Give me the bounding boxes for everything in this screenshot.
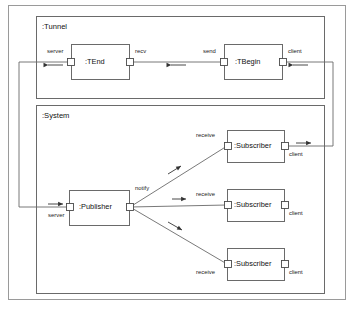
port-subscriber3-client [282,261,289,268]
port-tend-recv [127,59,134,66]
port-label-subscriber2-receive: receive [196,192,215,198]
port-publisher-server [67,204,74,211]
uml-component-diagram: :Tunnel :System :TEnd :TBegin :Publisher… [0,0,352,314]
port-label-subscriber1-client: client [289,152,303,158]
port-label-tbegin-client: client [288,49,302,55]
port-subscriber2-client [282,202,289,209]
component-label-subscriber3: :Subscriber [234,260,271,267]
port-label-subscriber3-client: client [289,270,303,276]
port-subscriber3-receive [225,261,232,268]
port-label-publisher-notify: notify [135,186,149,192]
link-notify-sub3 [130,207,227,264]
port-tend-server [68,59,75,66]
frame-tunnel [37,17,325,99]
component-label-publisher: :Publisher [79,203,112,210]
component-label-tbegin: :TBegin [235,58,260,65]
port-subscriber1-receive [225,143,232,150]
link-notify-sub2 [130,205,227,207]
port-label-tbegin-send: send [203,49,216,55]
port-label-subscriber1-receive: receive [196,133,215,139]
arrow-notify-sub1 [168,166,181,174]
link-tend-server-publisher-server [19,62,71,207]
component-label-subscriber1: :Subscriber [234,142,271,149]
port-label-tend-server: server [47,49,63,55]
port-label-subscriber3-receive: receive [196,270,215,276]
port-label-subscriber2-client: client [289,211,303,217]
port-label-tend-recv: recv [135,49,146,55]
component-label-subscriber2: :Subscriber [234,201,271,208]
arrow-notify-sub3 [168,222,182,230]
port-tbegin-client [280,59,287,66]
frame-title-system: :System [42,112,69,120]
port-subscriber2-receive [225,202,232,209]
port-label-publisher-server: server [48,213,64,219]
port-publisher-notify [127,204,134,211]
link-tbegin-client-subscriber1-client [283,62,333,146]
component-label-tend: :TEnd [85,58,105,65]
port-subscriber1-client [282,143,289,150]
frame-title-tunnel: :Tunnel [42,23,67,31]
port-tbegin-send [221,59,228,66]
